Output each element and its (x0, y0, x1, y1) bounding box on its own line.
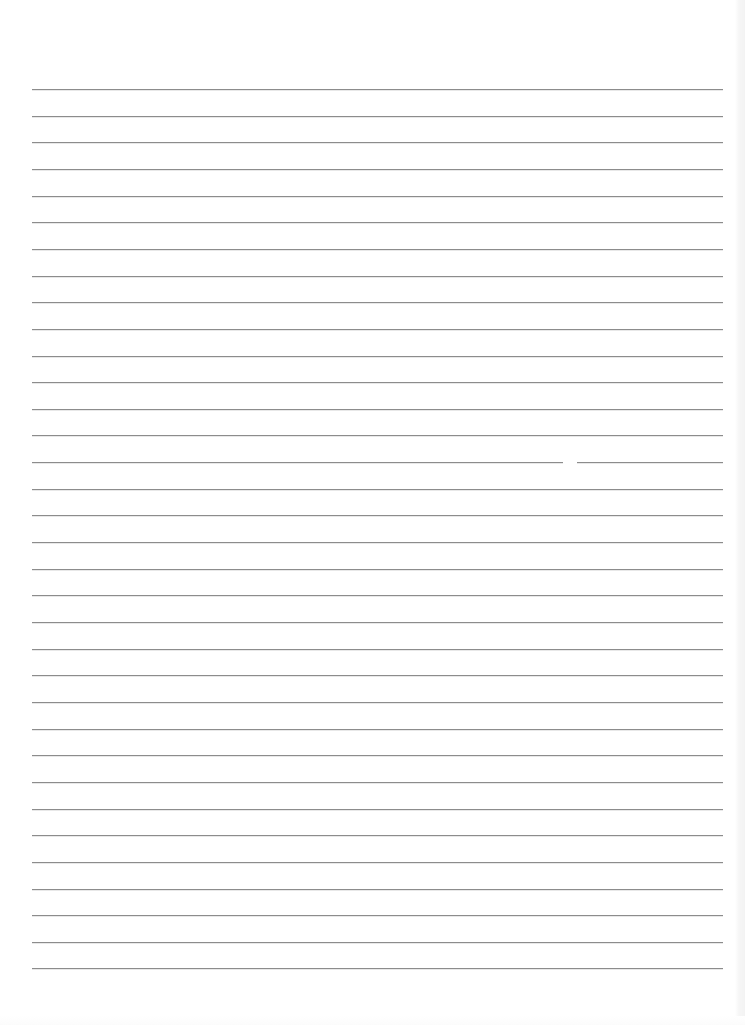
ruled-line (32, 755, 723, 756)
ruled-line (32, 435, 723, 436)
ruled-line (32, 889, 723, 890)
ruled-line (32, 356, 723, 357)
ruled-line (32, 622, 723, 623)
ruled-line (32, 595, 723, 596)
ruled-line (32, 142, 723, 143)
scan-gap (563, 461, 577, 464)
ruled-line (32, 542, 723, 543)
ruled-line (32, 222, 723, 223)
ruled-line (32, 409, 723, 410)
ruled-line (32, 862, 723, 863)
ruled-line (32, 276, 723, 277)
ruled-line (32, 489, 723, 490)
ruled-line (32, 915, 723, 916)
ruled-line (32, 515, 723, 516)
ruled-line (32, 809, 723, 810)
lined-paper-page (0, 0, 745, 1025)
ruled-line (32, 169, 723, 170)
ruled-line (32, 835, 723, 836)
ruled-line (32, 249, 723, 250)
ruled-line (32, 782, 723, 783)
ruled-line (32, 329, 723, 330)
scan-artifact (0, 1016, 745, 1025)
ruled-line (32, 382, 723, 383)
ruled-line (32, 942, 723, 943)
ruled-line (32, 702, 723, 703)
ruled-line (32, 729, 723, 730)
ruled-line (32, 302, 723, 303)
ruled-line (32, 196, 723, 197)
ruled-line (32, 569, 723, 570)
ruled-line (32, 675, 723, 676)
ruled-line (32, 462, 723, 463)
ruled-line (32, 968, 723, 969)
ruled-line (32, 116, 723, 117)
ruled-line (32, 649, 723, 650)
ruled-line (32, 89, 723, 90)
page-edge-shadow (735, 0, 745, 1025)
